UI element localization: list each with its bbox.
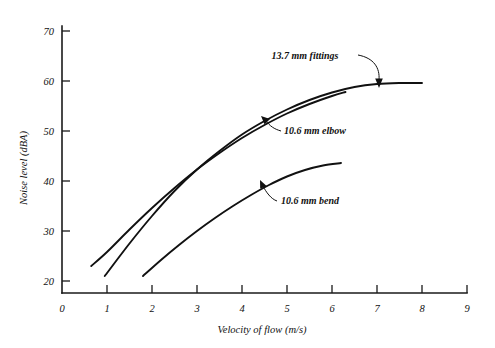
curve-10-6-mm-bend [143,163,341,276]
x-tick-label-group: 0123456789 [59,303,470,314]
noise-level-chart: 203040506070 Noise level (dBA) 012345678… [0,0,495,348]
x-tick-label: 9 [464,303,470,314]
x-tick-label: 4 [239,303,245,314]
annotation-label-bend: 10.6 mm bend [281,195,340,206]
y-tick-group [62,31,70,281]
annotation-fittings: 13.7 mm fittings [272,50,383,88]
annotation-leader-fittings [358,55,379,80]
y-tick-label: 70 [44,26,55,37]
x-tick-group [107,285,467,293]
y-tick-label-group: 203040506070 [43,26,55,287]
data-curves [91,83,422,276]
y-tick-label: 60 [44,76,55,87]
x-tick-label: 7 [374,303,380,314]
annotation-label-elbow: 10.6 mm elbow [284,125,346,136]
y-axis: 203040506070 Noise level (dBA) [18,26,70,293]
chart-canvas: 203040506070 Noise level (dBA) 012345678… [0,0,495,348]
x-tick-label: 8 [419,303,425,314]
x-tick-label: 2 [149,303,155,314]
x-axis-title: Velocity of flow (m/s) [218,324,307,336]
y-axis-title: Noise level (dBA) [18,130,30,206]
x-tick-label: 5 [284,303,289,314]
curve-10-6-mm-elbow [91,92,345,266]
y-tick-label: 50 [44,126,55,137]
x-axis: 0123456789 Velocity of flow (m/s) [59,285,470,336]
x-tick-label: 0 [59,303,65,314]
x-tick-label: 6 [329,303,335,314]
annotation-label-fittings: 13.7 mm fittings [272,50,339,61]
y-tick-label: 40 [44,176,55,187]
y-tick-label: 30 [43,226,55,237]
x-tick-label: 3 [193,303,199,314]
annotation-leader-bend [263,186,277,201]
y-tick-label: 20 [44,276,55,287]
x-tick-label: 1 [104,303,109,314]
curve-13-7-mm-fittings [105,83,422,276]
